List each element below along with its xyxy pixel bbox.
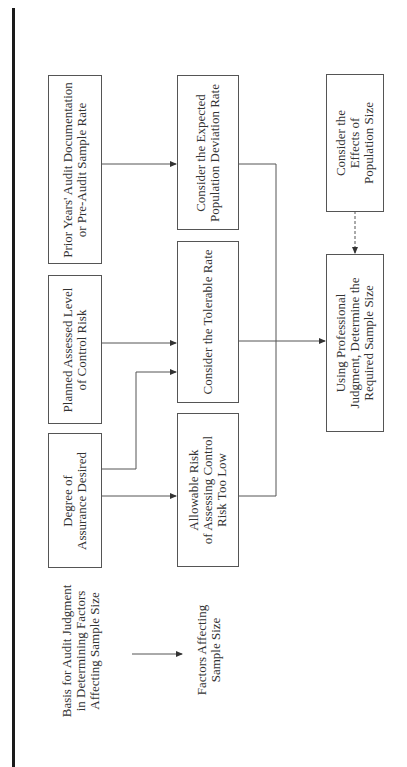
box-population-size: Consider the Effects of Population Size xyxy=(326,74,384,212)
box-degree-assurance-label: Degree of Assurance Desired xyxy=(61,452,89,550)
box-expected-deviation: Consider the Expected Population Deviati… xyxy=(177,75,239,230)
box-planned-control-risk-label: Planned Assessed Level of Control Risk xyxy=(61,287,89,412)
box-degree-assurance: Degree of Assurance Desired xyxy=(48,433,102,568)
box-allowable-risk: Allowable Risk of Assessing Control Risk… xyxy=(177,413,239,567)
box-prior-years: Prior Years' Audit Documentation or Pre-… xyxy=(48,75,102,264)
box-population-size-label: Consider the Effects of Population Size xyxy=(334,102,376,184)
box-tolerable-rate-label: Consider the Tolerable Rate xyxy=(201,249,215,394)
box-planned-control-risk: Planned Assessed Level of Control Risk xyxy=(48,275,102,424)
box-prior-years-label: Prior Years' Audit Documentation or Pre-… xyxy=(61,82,89,258)
box-sample-size-label: Using Professional Judgment, Determine t… xyxy=(334,277,376,408)
box-tolerable-rate: Consider the Tolerable Rate xyxy=(177,241,239,403)
box-expected-deviation-label: Consider the Expected Population Deviati… xyxy=(194,84,222,222)
legend-basis-label: Basis for Audit Judgment in Determining … xyxy=(60,585,102,718)
box-sample-size: Using Professional Judgment, Determine t… xyxy=(326,254,384,432)
legend-factors-label: Factors Affecting Sample Size xyxy=(195,605,223,695)
box-allowable-risk-label: Allowable Risk of Assessing Control Risk… xyxy=(187,436,229,544)
